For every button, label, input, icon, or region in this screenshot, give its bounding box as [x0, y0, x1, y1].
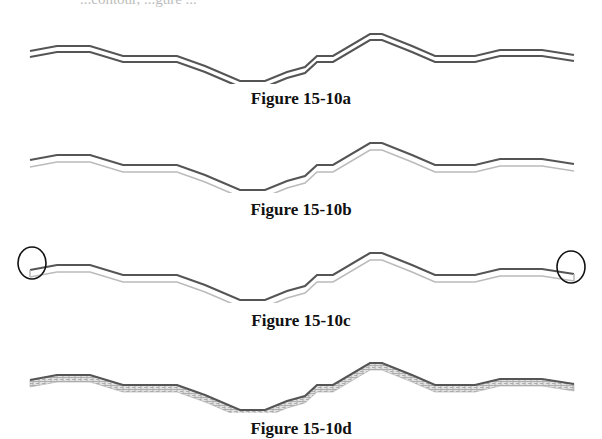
caption-figure-15-10c: Figure 15-10c: [0, 311, 602, 331]
figure-15-10a: [0, 24, 602, 84]
figure-15-10d: [0, 353, 602, 413]
left-end-highlight-circle: [18, 247, 46, 279]
caption-figure-15-10a: Figure 15-10a: [0, 89, 602, 109]
caption-figure-15-10d: Figure 15-10d: [0, 419, 602, 439]
figure-15-10b: [0, 133, 602, 193]
double-line-contour-drawing: [0, 24, 602, 84]
figure-15-10c: [0, 243, 602, 303]
right-end-highlight-circle: [557, 251, 585, 283]
caption-figure-15-10b: Figure 15-10b: [0, 200, 602, 220]
cut-off-text-fragment: ...contour, ...gure ...: [80, 0, 197, 8]
dark-and-light-offset-contour-drawing: [0, 133, 602, 193]
closed-end-contour-drawing: [0, 243, 602, 303]
hatched-band-contour-drawing: [0, 353, 602, 413]
